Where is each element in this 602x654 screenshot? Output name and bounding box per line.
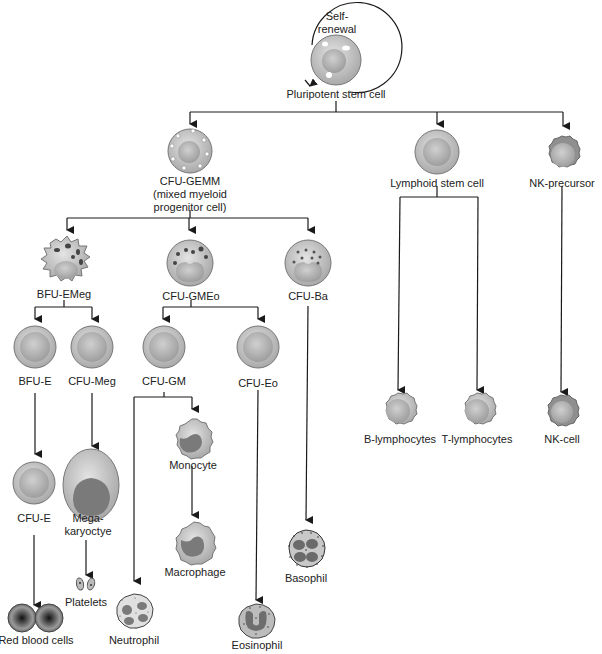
t-lymphocyte-icon (465, 393, 496, 424)
cfu-gmeo-label: CFU-GMEo (162, 290, 219, 303)
eosinophil-label: Eosinophil (232, 639, 283, 652)
bfu-emeg-label: BFU-EMeg (37, 288, 91, 301)
cfu-gm-icon (143, 326, 185, 368)
pluripotent-stem-cell-label: Pluripotent stem cell (286, 88, 385, 101)
neutrophil-label: Neutrophil (109, 634, 159, 647)
bfu-emeg-icon (41, 236, 90, 281)
basophil-label: Basophil (285, 572, 327, 585)
platelets-icon (76, 577, 96, 590)
nk-cell-icon (548, 395, 579, 426)
cfu-gemm-label: CFU-GEMM (mixed myeloid progenitor cell) (153, 175, 227, 214)
self-renewal-label: Self- renewal (318, 10, 357, 36)
lymphoid-stem-cell-label: Lymphoid stem cell (390, 177, 484, 190)
nk-precursor-icon (549, 136, 580, 167)
cfu-e-label: CFU-E (17, 512, 51, 525)
bfu-e-label: BFU-E (19, 375, 52, 388)
cfu-gemm-icon (168, 129, 212, 173)
cfu-eo-label: CFU-Eo (238, 377, 278, 390)
hematopoiesis-diagram: Self- renewal Pluripotent stem cell CFU-… (0, 0, 602, 654)
red-blood-cells-icon (8, 604, 63, 632)
cfu-meg-icon (71, 326, 113, 368)
cfu-meg-label: CFU-Meg (68, 375, 116, 388)
red-blood-cells-label: Red blood cells (0, 634, 74, 647)
cfu-e-icon (13, 462, 55, 504)
bfu-e-icon (14, 326, 56, 368)
lymphoid-stem-cell-icon (415, 130, 459, 174)
monocyte-icon (176, 419, 213, 459)
nk-precursor-label: NK-precursor (529, 177, 594, 190)
cfu-ba-icon (285, 240, 331, 286)
macrophage-icon (176, 522, 216, 565)
b-lymphocytes-label: B-lymphocytes (364, 433, 436, 446)
cfu-ba-label: CFU-Ba (288, 290, 328, 303)
megakaryocyte-label: Mega- karyoctye (64, 512, 111, 538)
cfu-gmeo-icon (167, 240, 213, 286)
macrophage-label: Macrophage (164, 566, 225, 579)
basophil-icon (288, 530, 325, 568)
b-lymphocyte-icon (386, 393, 417, 424)
monocyte-label: Monocyte (169, 459, 217, 472)
neutrophil-icon (117, 594, 153, 629)
eosinophil-icon (239, 604, 275, 638)
platelets-label: Platelets (65, 596, 107, 609)
megakaryocyte-icon (63, 449, 119, 521)
t-lymphocytes-label: T-lymphocytes (442, 433, 513, 446)
cfu-eo-icon (237, 326, 279, 368)
nk-cell-label: NK-cell (544, 433, 579, 446)
stem-cell-icon (311, 35, 361, 85)
cfu-gm-label: CFU-GM (142, 375, 186, 388)
